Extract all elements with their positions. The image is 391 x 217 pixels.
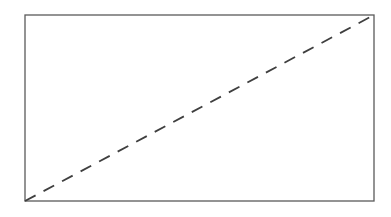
dashed-diagonal-line — [25, 15, 374, 201]
diagram-canvas — [0, 0, 391, 217]
